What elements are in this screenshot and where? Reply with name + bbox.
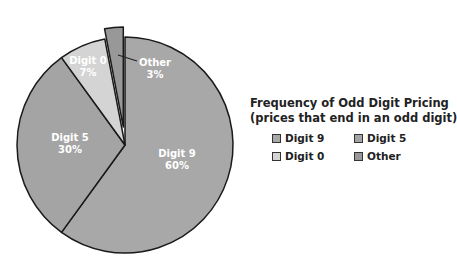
label-other-pct: 3% [147, 69, 164, 80]
label-other-name: Other [139, 57, 171, 68]
legend-item-digit-5: Digit 5 [354, 132, 434, 144]
swatch-icon [354, 152, 363, 161]
legend-item-digit-9: Digit 9 [272, 132, 354, 144]
legend-item-other: Other [354, 150, 434, 162]
label-digit-5-pct: 30% [58, 144, 82, 155]
legend-label: Digit 5 [367, 132, 406, 144]
chart-subtitle: (prices that end in an odd digit) [250, 111, 426, 126]
legend-item-digit-0: Digit 0 [272, 150, 354, 162]
label-digit-9-pct: 60% [165, 160, 189, 171]
legend: Frequency of Odd Digit Pricing (prices t… [250, 96, 426, 162]
swatch-icon [272, 134, 281, 143]
legend-label: Other [367, 150, 401, 162]
chart-title: Frequency of Odd Digit Pricing [250, 96, 426, 111]
legend-label: Digit 9 [285, 132, 324, 144]
label-digit-9-name: Digit 9 [158, 148, 196, 159]
legend-label: Digit 0 [285, 150, 324, 162]
label-digit-5-name: Digit 5 [51, 132, 89, 143]
label-digit-0-pct: 7% [80, 67, 97, 78]
swatch-icon [354, 134, 363, 143]
pie-chart: Digit 9 60% Digit 5 30% Digit 0 7% Other… [0, 0, 240, 266]
pie-slices [17, 27, 233, 253]
label-digit-0-name: Digit 0 [69, 55, 107, 66]
swatch-icon [272, 152, 281, 161]
legend-items: Digit 9 Digit 5 Digit 0 Other [272, 132, 426, 162]
